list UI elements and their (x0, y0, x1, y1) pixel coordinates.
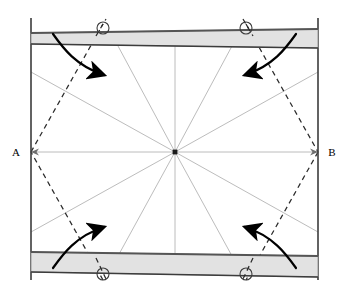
label-vertex-a: A (12, 146, 20, 158)
geometric-diagram: A B (0, 0, 349, 294)
figure-container: A B (0, 0, 349, 294)
center-point-dot (173, 150, 178, 155)
label-vertex-b: B (328, 146, 335, 158)
bottom-bar-group (31, 252, 318, 277)
top-bar-group (31, 29, 318, 48)
